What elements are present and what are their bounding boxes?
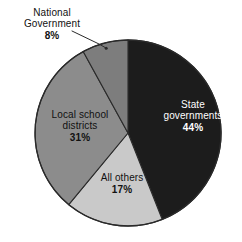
national-government-leader-endpoint <box>105 47 108 50</box>
national-government-leader-line <box>72 31 106 48</box>
pie-chart-graphic <box>0 0 242 242</box>
pie-chart: State governments 44% All others 17% Loc… <box>0 0 242 242</box>
